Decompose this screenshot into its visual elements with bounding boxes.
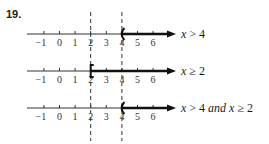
inequality-label: x > 4 (180, 27, 205, 41)
arrow-right-icon (167, 105, 176, 112)
arrow-right-icon (167, 31, 176, 38)
tick-label: 3 (104, 37, 109, 48)
tick-label: 6 (151, 111, 156, 122)
tick-label: −1 (36, 37, 47, 48)
tick-label: 6 (151, 37, 156, 48)
tick-label: 2 (88, 37, 93, 48)
number-line-diagram: −10123456x > 4−10123456x ≥ 2−10123456x >… (0, 0, 269, 144)
tick-label: 2 (88, 111, 93, 122)
inequality-label: x ≥ 2 (180, 64, 205, 78)
arrow-right-icon (167, 68, 176, 75)
tick-label: 6 (151, 74, 156, 85)
tick-label: −1 (36, 111, 47, 122)
number-line-2: −10123456x ≥ 2 (27, 64, 205, 85)
tick-label: 0 (57, 37, 62, 48)
tick-label: 0 (57, 74, 62, 85)
tick-label: 0 (57, 111, 62, 122)
tick-label: −1 (36, 74, 47, 85)
number-line-1: −10123456x > 4 (27, 27, 205, 48)
inequality-label: x > 4 and x ≥ 2 (180, 101, 253, 115)
number-line-3: −10123456x > 4 and x ≥ 2 (27, 101, 253, 122)
tick-label: 5 (135, 74, 140, 85)
tick-label: 5 (135, 37, 140, 48)
tick-label: 4 (119, 74, 124, 85)
tick-label: 1 (73, 111, 78, 122)
tick-label: 3 (104, 111, 109, 122)
tick-label: 1 (73, 37, 78, 48)
tick-label: 5 (135, 111, 140, 122)
tick-label: 1 (73, 74, 78, 85)
tick-label: 3 (104, 74, 109, 85)
